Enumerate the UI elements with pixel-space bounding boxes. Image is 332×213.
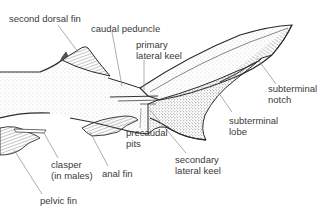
label-subterminal-notch: subterminal notch [268,84,317,105]
label-anal-fin: anal fin [102,169,133,180]
shark-illustration [0,0,332,213]
label-line: primary [136,40,182,51]
label-line: secondary [175,155,221,166]
label-clasper: clasper (in males) [51,160,93,181]
label-line: subterminal [268,84,317,95]
label-line: subterminal [229,116,278,127]
label-line: notch [268,95,317,106]
label-line: pits [126,139,168,150]
label-line: lateral keel [175,166,221,177]
label-line: precaudal [126,128,168,139]
label-line: lateral keel [136,51,182,62]
shark-body [0,60,160,134]
shark-tail-diagram: second dorsal fin caudal peduncle primar… [0,0,332,213]
label-secondary-lateral-keel: secondary lateral keel [175,155,221,176]
label-second-dorsal-fin: second dorsal fin [9,14,81,25]
label-precaudal-pits: precaudal pits [126,128,168,149]
label-caudal-peduncle: caudal peduncle [91,24,160,35]
label-primary-lateral-keel: primary lateral keel [136,40,182,61]
label-line: clasper [51,160,93,171]
label-line: (in males) [51,171,93,182]
label-line: lobe [229,127,278,138]
pelvic-fin [0,127,46,155]
label-subterminal-lobe: subterminal lobe [229,116,278,137]
label-pelvic-fin: pelvic fin [40,196,77,207]
